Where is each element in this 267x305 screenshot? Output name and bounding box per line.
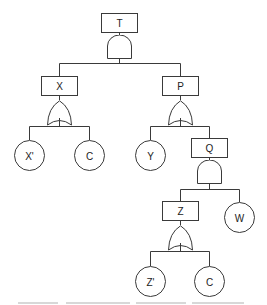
- event-Z: Z: [163, 202, 199, 221]
- svg-text:T: T: [116, 18, 122, 29]
- fault-tree-diagram: T X X' C P Y Q: [0, 0, 267, 305]
- event-P: P: [163, 77, 199, 96]
- basic-event-Z-prime: Z': [136, 267, 166, 297]
- svg-text:Z': Z': [146, 277, 154, 288]
- and-gate-icon: [108, 35, 132, 59]
- basic-event-Y: Y: [136, 141, 166, 171]
- event-T: T: [102, 14, 138, 33]
- event-X: X: [42, 77, 78, 96]
- and-gate-icon: [198, 160, 222, 184]
- svg-text:X': X': [25, 151, 34, 162]
- svg-text:C: C: [86, 151, 93, 162]
- basic-event-W: W: [225, 203, 255, 233]
- basic-event-C-2: C: [195, 267, 225, 297]
- svg-text:X: X: [56, 81, 63, 92]
- svg-text:C: C: [206, 277, 213, 288]
- svg-text:P: P: [177, 81, 184, 92]
- svg-text:W: W: [235, 213, 245, 224]
- basic-event-C: C: [75, 141, 105, 171]
- event-Q: Q: [192, 139, 228, 158]
- svg-text:Y: Y: [147, 151, 154, 162]
- basic-event-X-prime: X': [15, 141, 45, 171]
- svg-text:Q: Q: [206, 143, 214, 154]
- svg-text:Z: Z: [177, 206, 183, 217]
- cropped-caption-artifact: [18, 302, 244, 304]
